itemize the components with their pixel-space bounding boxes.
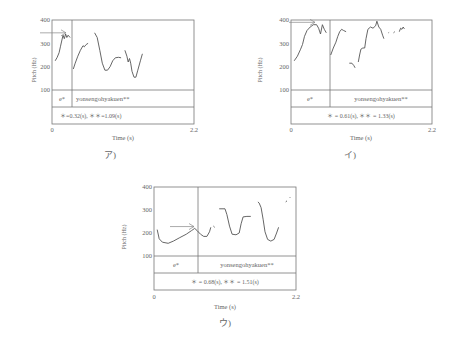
x-tick-2-2: 2.2 [292,293,300,300]
y-tick-200: 200 [40,63,50,70]
y-tick-100: 100 [142,252,152,259]
y-tick-200: 200 [142,229,152,236]
panel-caption: ア) [104,150,116,160]
pitch-curves [55,33,142,77]
x-axis-label: Time (s) [350,134,372,142]
pitch-curve [358,21,384,62]
segment-label-e: e* [173,261,179,268]
y-tick-400: 400 [142,183,152,190]
x-axis-label: Time (s) [214,303,236,311]
pitch-curve [125,50,142,77]
x-tick-0: 0 [152,293,155,300]
panel-a: Pitch (Hz) 400 300 200 100 e* yonsengohy… [31,16,198,160]
segment-label-yonsengohyakuen: yonsengohyakuen** [76,95,129,102]
y-tick-400: 400 [279,16,289,23]
pitch-curve [290,197,291,198]
arrow-icon [170,224,194,230]
pitch-curve [258,202,279,241]
panel-i: Pitch (Hz) 400 300 200 100 e* yonsengohy… [257,16,436,160]
pitch-curve [294,25,326,61]
duration-text: ＊=0.32(s), ＊＊=1.09(s) [60,113,121,120]
pitch-curve [157,227,211,243]
pitch-curve [331,29,346,55]
y-tick-300: 300 [40,40,50,47]
pitch-curve [73,43,88,69]
y-tick-100: 100 [279,86,289,93]
y-axis-label: Pitch (Hz) [257,58,264,83]
pitch-curve [95,33,122,70]
y-tick-100: 100 [40,86,50,93]
y-axis-label: Pitch (Hz) [121,225,128,250]
pitch-curve [219,209,251,235]
duration-text: ＊ = 0.68(s), ＊＊ = 1.51(s) [191,279,258,286]
pitch-curve [394,32,395,33]
plot-frame [52,20,194,124]
segment-label-yonsengohyakuen: yonsengohyakuen** [354,95,407,102]
pitch-curve [286,201,287,202]
panel-caption: イ) [344,150,356,160]
pitch-curve [349,63,355,68]
x-tick-0: 0 [50,126,53,133]
pitch-curves [157,197,290,243]
pitch-curves [294,21,404,68]
y-axis-label: Pitch (Hz) [31,58,38,83]
pitch-curve [399,27,404,32]
segment-label-e: e* [59,95,65,102]
x-tick-0: 0 [289,126,292,133]
pitch-figure: Pitch (Hz) 400 300 200 100 e* yonsengohy… [0,0,455,341]
arrow-icon [40,30,66,36]
pitch-curve [213,226,214,227]
segment-label-yonsengohyakuen: yonsengohyakuen** [220,261,273,268]
y-tick-400: 400 [40,16,50,23]
x-tick-2-2: 2.2 [190,126,198,133]
y-tick-300: 300 [279,40,289,47]
panel-caption: ウ) [219,318,231,328]
y-tick-200: 200 [279,63,289,70]
segment-label-e: e* [307,95,313,102]
duration-text: ＊ = 0.61(s), ＊＊ = 1.33(s) [327,113,394,120]
x-axis-label: Time (s) [112,134,134,142]
plot-frame [291,20,432,124]
x-tick-2-2: 2.2 [428,126,436,133]
y-tick-300: 300 [142,206,152,213]
pitch-curve [55,34,70,61]
panel-u: Pitch (Hz) 400 300 200 100 e* yonsengohy… [121,183,300,328]
